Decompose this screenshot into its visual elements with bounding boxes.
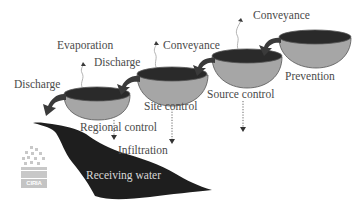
label-conveyance-top: Conveyance	[253, 10, 310, 22]
label-conveyance-middle: Conveyance	[163, 40, 220, 52]
infiltration-arrowhead-regional	[111, 135, 117, 140]
label-regional-control: Regional control	[80, 122, 157, 134]
evaporation-arrowhead-1	[81, 62, 86, 66]
label-infiltration: Infiltration	[118, 145, 168, 157]
evaporation-wavy-line-2	[154, 43, 157, 67]
receiving-water-shape	[33, 123, 212, 200]
ciria-logo: CIRIA	[21, 146, 47, 188]
label-evaporation: Evaporation	[57, 40, 113, 52]
label-source-control: Source control	[207, 89, 274, 101]
evaporation-arrowhead-2	[154, 41, 159, 45]
label-receiving-water: Receiving water	[86, 170, 161, 182]
logo-pixel-mosaic-icon	[21, 146, 47, 178]
bowl-prevention	[279, 30, 351, 68]
label-prevention: Prevention	[285, 71, 335, 83]
infiltration-arrowhead-source	[240, 127, 246, 132]
label-discharge-left: Discharge	[14, 79, 60, 91]
label-site-control: Site control	[144, 101, 197, 113]
bowl-source-control	[212, 49, 282, 88]
discharge-arrow-2	[43, 94, 66, 116]
evaporation-arrowhead-3	[238, 18, 243, 22]
evaporation-wavy-line-1	[81, 64, 84, 87]
evaporation-wavy-line-3	[236, 21, 241, 49]
label-discharge-upper: Discharge	[94, 57, 140, 69]
logo-text: CIRIA	[21, 179, 47, 188]
infiltration-arrowhead-site	[169, 139, 175, 144]
